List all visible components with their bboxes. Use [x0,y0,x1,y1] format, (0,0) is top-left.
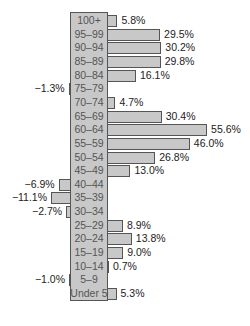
value-label: −2.7% [32,205,62,219]
age-group-label: 50–54 [70,151,108,165]
value-label: 30.2% [165,41,195,55]
value-label: 55.6% [211,123,241,137]
data-bar [107,152,155,164]
data-bar [107,70,136,82]
data-bar [107,124,207,136]
age-group-label: 90–94 [70,41,108,55]
data-bar [51,192,71,204]
value-label: 30.4% [166,110,196,124]
value-label: −6.9% [25,178,55,192]
age-group-label: 10–14 [70,260,108,274]
age-group-label: 75–79 [70,82,108,96]
age-group-label: 85–89 [70,55,108,69]
value-label: 13.8% [136,232,166,246]
value-label: 9.0% [127,246,151,260]
data-bar [107,233,132,245]
data-bar [107,220,123,232]
data-bar [107,288,117,300]
age-group-label: 100+ [70,14,108,28]
age-group-label: 45–49 [70,164,108,178]
age-group-label: 5–9 [70,273,108,287]
age-group-label: 40–44 [70,178,108,192]
age-group-label: 95–99 [70,28,108,42]
data-bar [107,138,190,150]
age-group-label: 35–39 [70,191,108,205]
data-bar [107,261,109,273]
data-bar [107,56,161,68]
age-group-label: 30–34 [70,205,108,219]
value-label: 29.5% [164,28,194,42]
value-label: −1.3% [35,82,65,96]
value-label: 4.7% [119,96,143,110]
age-group-label: 60–64 [70,123,108,137]
data-bar [107,165,130,177]
data-bar [66,206,71,218]
value-label: 5.3% [121,287,145,301]
value-label: 0.7% [113,260,137,274]
value-label: 16.1% [140,69,170,83]
value-label: 5.8% [121,14,145,28]
value-label: 26.8% [159,151,189,165]
age-group-label: 55–59 [70,137,108,151]
age-group-label: 70–74 [70,96,108,110]
data-bar [107,29,160,41]
age-group-label: 80–84 [70,69,108,83]
data-bar [69,274,71,286]
value-label: 46.0% [194,137,224,151]
value-label: −11.1% [12,191,47,205]
age-group-label: 25–29 [70,219,108,233]
age-group-label: 15–19 [70,246,108,260]
data-bar [69,83,71,95]
age-group-label: Under 5 [70,287,108,301]
value-label: 8.9% [127,219,151,233]
data-bar [107,247,123,259]
value-label: 13.0% [134,164,164,178]
age-group-label: 65–69 [70,110,108,124]
data-bar [107,97,115,109]
value-label: −1.0% [35,273,65,287]
age-group-label: 20–24 [70,232,108,246]
age-group-change-chart: 100+5.8%95–9929.5%90–9430.2%85–8929.8%80… [0,0,250,326]
value-label: 29.8% [165,55,195,69]
data-bar [59,179,71,191]
data-bar [107,111,162,123]
data-bar [107,15,117,27]
data-bar [107,42,161,54]
